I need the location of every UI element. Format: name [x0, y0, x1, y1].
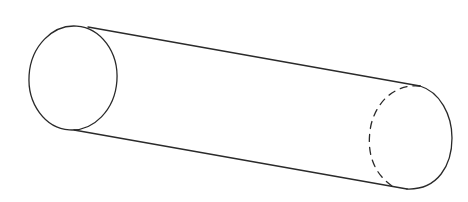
cylinder-near-end	[25, 23, 120, 133]
cylinder-top-edge	[88, 27, 420, 86]
cylinder-bottom-edge	[74, 130, 407, 189]
cylinder-diagram	[0, 0, 468, 202]
cylinder-far-end-visible	[407, 86, 452, 189]
cylinder-far-end-hidden	[369, 86, 420, 186]
cylinder	[25, 23, 452, 189]
